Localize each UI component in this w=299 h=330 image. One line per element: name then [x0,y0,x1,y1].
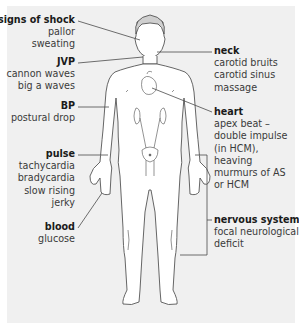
label-title: heart [214,106,288,118]
label-line: carotid sinus [214,69,278,81]
label-line: cannon waves [6,68,75,80]
label-line: heaving [214,155,288,167]
leader-jvp [78,57,143,63]
label-line: bradycardia [18,172,75,184]
label-line: sweating [0,38,75,50]
label-signs-of-shock: signs of shock pallor sweating [0,14,75,51]
label-line: glucose [38,233,75,245]
label-line: slow rising [18,185,75,197]
label-line: jerky [18,197,75,209]
label-title: nervous system [214,214,299,226]
leader-signs-of-shock [78,21,140,40]
label-heart: heart apex beat – double impulse (in HCM… [214,106,288,191]
label-blood: blood glucose [38,221,75,245]
label-line: pallor [0,26,75,38]
label-title: BP [11,100,75,112]
body-outline [90,64,210,305]
label-line: postural drop [11,112,75,124]
label-jvp: JVP cannon waves big a waves [6,56,75,93]
label-bp: BP postural drop [11,100,75,124]
label-line: focal neurological [214,226,299,238]
label-neck: neck carotid bruits carotid sinus massag… [214,45,278,94]
label-line: (in HCM), [214,143,288,155]
label-title: pulse [18,148,75,160]
label-line: tachycardia [18,160,75,172]
label-line: carotid bruits [214,57,278,69]
label-line: or HCM [214,179,288,191]
label-line: massage [214,82,278,94]
label-title: neck [214,45,278,57]
label-line: double impulse [214,130,288,142]
label-line: big a waves [6,80,75,92]
label-line: murmurs of AS [214,167,288,179]
label-title: blood [38,221,75,233]
label-pulse: pulse tachycardia bradycardia slow risin… [18,148,75,209]
label-line: deficit [214,238,299,250]
label-line: apex beat – [214,118,288,130]
label-title: signs of shock [0,14,75,26]
leader-blood [78,193,102,228]
label-nervous-system: nervous system focal neurological defici… [214,214,299,251]
label-title: JVP [6,56,75,68]
